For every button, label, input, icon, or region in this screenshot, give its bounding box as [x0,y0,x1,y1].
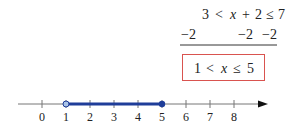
row2-term-2: −2 [262,27,277,42]
inequality-diagram: 3 < x + 2 ≤ 7 −2 −2 −2 1 < x ≤ 5 [0,0,290,128]
row2-term-1: −2 [238,27,253,42]
tick-label-8: 8 [231,110,237,124]
result-inequality: 1 < x ≤ 5 [194,61,254,76]
closed-endpoint-icon [159,101,165,107]
result-term-3: ≤ [233,61,241,76]
tick-label-5: 5 [159,110,165,124]
row2-term-0: −2 [181,27,196,42]
row1-term-4: 2 [255,7,262,22]
tick-label-3: 3 [111,110,117,124]
row1-term-6: 7 [278,7,285,22]
row1-term-1: < [215,7,223,22]
tick-label-7: 7 [207,110,213,124]
tick-label-0: 0 [39,110,45,124]
inequality-row-2: −2 −2 −2 [181,27,277,42]
tick-label-2: 2 [87,110,93,124]
row1-term-5: ≤ [266,7,274,22]
tick-label-1: 1 [63,110,69,124]
result-term-0: 1 [194,61,201,76]
result-term-2: x [220,61,228,76]
tick-label-6: 6 [183,110,189,124]
tick-label-4: 4 [135,110,141,124]
row1-term-2: x [229,7,237,22]
row1-term-3: + [242,7,250,22]
result-term-4: 5 [247,61,254,76]
number-line: 0 1 2 3 4 5 6 7 8 [18,100,268,124]
row1-term-0: 3 [202,7,209,22]
inequality-row-1: 3 < x + 2 ≤ 7 [202,7,285,22]
axis-arrow-icon [258,101,268,108]
result-term-1: < [206,61,214,76]
open-endpoint-icon [63,101,69,107]
